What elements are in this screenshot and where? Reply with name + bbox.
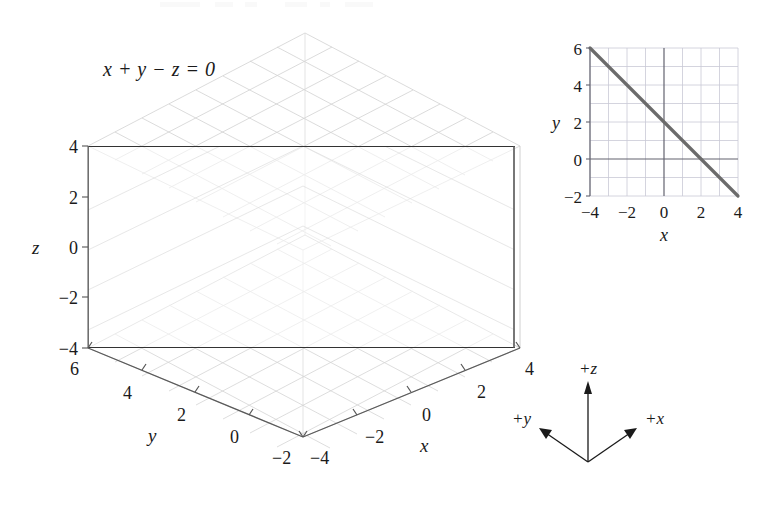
scan-artifact	[160, 2, 373, 7]
inset-x-tick-2: 2	[697, 203, 706, 222]
x-tick-label-neg4: −4	[310, 448, 329, 468]
inset-x-tick-neg2: −2	[618, 203, 636, 222]
y-tick-label-6: 6	[70, 359, 79, 379]
z-tick-label-0: 0	[69, 238, 78, 258]
z-tick-label-2: 2	[69, 188, 78, 208]
plane-mesh-surface	[88, 106, 515, 348]
z-tick-label-neg2: −2	[59, 288, 78, 308]
inset-y-tick-2: 2	[574, 114, 583, 133]
gizmo-z-arrow-head	[584, 381, 592, 394]
figure-canvas: 4 2 0 −2 −4 z 6 4 2 0 −2 y	[0, 0, 760, 510]
y-tick-label-4: 4	[123, 383, 132, 403]
x-tick-label-neg2: −2	[365, 427, 384, 447]
inset-plot-2d	[586, 48, 738, 196]
inset-x-axis-label: x	[659, 225, 668, 245]
x-axis-label: x	[419, 435, 429, 456]
inset-x-tick-0: 0	[660, 203, 669, 222]
inset-x-tick-4: 4	[734, 203, 743, 222]
x-axis	[299, 342, 520, 437]
equation-label: x + y − z = 0	[102, 58, 216, 81]
y-axis	[88, 342, 307, 437]
y-axis-label: y	[146, 425, 157, 446]
gizmo-x-arrow-shaft	[588, 433, 630, 462]
x-tick-label-4: 4	[525, 359, 534, 379]
y-tick-label-0: 0	[230, 427, 239, 447]
gizmo-z-label: +z	[579, 359, 597, 378]
inset-y-tick-4: 4	[574, 77, 583, 96]
x-tick-label-0: 0	[422, 405, 431, 425]
axis-orientation-indicator	[539, 381, 637, 462]
inset-x-tick-neg4: −4	[581, 203, 600, 222]
inset-y-tick-6: 6	[574, 40, 583, 59]
x-tick-label-2: 2	[477, 382, 486, 402]
y-tick-label-neg2: −2	[272, 448, 291, 468]
gizmo-x-label: +x	[645, 409, 664, 428]
gizmo-x-arrow-head	[624, 428, 637, 439]
inset-y-tick-neg2: −2	[564, 188, 582, 207]
z-axis	[82, 146, 88, 348]
z-axis-label: z	[31, 237, 40, 258]
gizmo-y-arrow-shaft	[546, 433, 588, 462]
inset-y-tick-0: 0	[574, 151, 583, 170]
gizmo-y-label: +y	[512, 409, 531, 428]
gizmo-y-arrow-head	[539, 428, 552, 439]
inset-y-axis-label: y	[550, 113, 560, 133]
z-tick-label-4: 4	[69, 137, 78, 157]
z-tick-label-neg4: −4	[59, 339, 78, 359]
y-tick-label-2: 2	[177, 405, 186, 425]
figure-svg: 4 2 0 −2 −4 z 6 4 2 0 −2 y	[0, 0, 760, 510]
